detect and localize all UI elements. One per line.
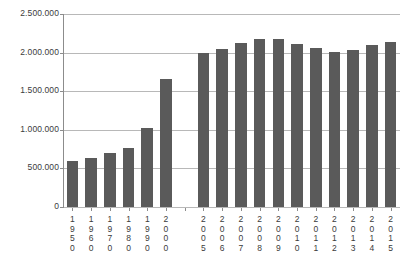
x-tick-mark <box>203 208 204 211</box>
x-tick-label-2010: 2010 <box>288 215 306 253</box>
x-tick-label-1990: 1990 <box>138 215 156 253</box>
x-tick-mark <box>260 208 261 211</box>
y-tick-label: 2.500.000 <box>20 9 59 18</box>
x-tick-mark <box>222 208 223 211</box>
x-label-digit: 9 <box>269 244 287 254</box>
y-tick-label: 0 <box>54 202 59 211</box>
x-label-digit: 8 <box>251 244 269 254</box>
x-label-digit: 0 <box>288 244 306 254</box>
x-tick-mark <box>147 208 148 211</box>
y-tick-mark <box>60 130 63 131</box>
x-tick-label-2015: 2015 <box>382 215 400 253</box>
y-tick-label: 1.000.000 <box>20 125 59 134</box>
y-tick-mark <box>60 91 63 92</box>
x-label-digit: 0 <box>138 244 156 254</box>
y-axis-labels: 0500.0001.000.0001.500.0002.000.0002.500… <box>0 0 59 268</box>
x-label-digit: 6 <box>213 244 231 254</box>
x-label-digit: 5 <box>382 244 400 254</box>
bar-chart: 0500.0001.000.0001.500.0002.000.0002.500… <box>0 0 413 268</box>
y-tick-label: 500.000 <box>28 163 59 172</box>
x-tick-mark <box>353 208 354 211</box>
x-label-digit: 1 <box>307 244 325 254</box>
x-label-digit: 0 <box>63 244 81 254</box>
x-tick-label-2012: 2012 <box>325 215 343 253</box>
x-tick-label-2013: 2013 <box>344 215 362 253</box>
x-label-digit: 0 <box>120 244 138 254</box>
x-tick-label-2000: 2000 <box>157 215 175 253</box>
x-tick-mark <box>391 208 392 211</box>
y-tick-label: 2.000.000 <box>20 48 59 57</box>
x-tick-mark <box>166 208 167 211</box>
x-tick-label-2006: 2006 <box>213 215 231 253</box>
x-tick-label-2011: 2011 <box>307 215 325 253</box>
x-label-digit: 4 <box>363 244 381 254</box>
x-axis: 1950196019701980199020002005200620072008… <box>63 0 400 268</box>
y-tick-label: 1.500.000 <box>20 86 59 95</box>
x-label-digit: 5 <box>194 244 212 254</box>
x-tick-label-1970: 1970 <box>101 215 119 253</box>
x-tick-mark <box>129 208 130 211</box>
x-tick-label-2008: 2008 <box>251 215 269 253</box>
x-tick-mark <box>334 208 335 211</box>
x-tick-mark <box>91 208 92 211</box>
x-tick-label-1950: 1950 <box>63 215 81 253</box>
x-tick-mark <box>278 208 279 211</box>
x-tick-mark <box>72 208 73 211</box>
y-tick-mark <box>60 207 63 208</box>
x-tick-mark-gap <box>185 208 186 211</box>
x-label-digit: 0 <box>82 244 100 254</box>
y-tick-mark <box>60 53 63 54</box>
y-tick-mark <box>60 14 63 15</box>
x-label-digit: 0 <box>101 244 119 254</box>
x-tick-label-2007: 2007 <box>232 215 250 253</box>
x-label-digit: 7 <box>232 244 250 254</box>
x-label-digit: 3 <box>344 244 362 254</box>
x-tick-mark <box>241 208 242 211</box>
y-tick-mark <box>60 168 63 169</box>
x-tick-mark <box>372 208 373 211</box>
x-tick-label-1960: 1960 <box>82 215 100 253</box>
x-tick-mark <box>297 208 298 211</box>
x-label-digit: 0 <box>157 244 175 254</box>
x-tick-mark <box>316 208 317 211</box>
x-tick-label-1980: 1980 <box>120 215 138 253</box>
x-tick-label-2014: 2014 <box>363 215 381 253</box>
x-tick-label-2009: 2009 <box>269 215 287 253</box>
x-label-digit: 2 <box>325 244 343 254</box>
x-tick-mark <box>110 208 111 211</box>
x-tick-label-2005: 2005 <box>194 215 212 253</box>
